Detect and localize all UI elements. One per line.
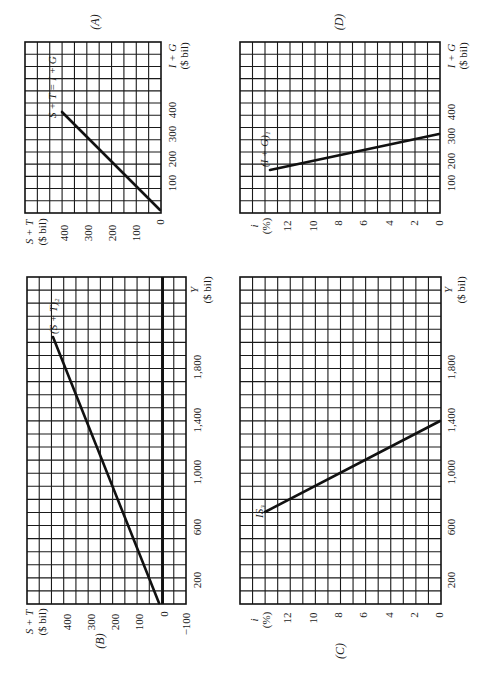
- tick-label: 1,000: [445, 459, 457, 484]
- panel-a-x-axis-label: I + G: [166, 44, 178, 70]
- tick-label: 0: [154, 219, 166, 225]
- panel-c-y-ticks: 12 10 8 6 4 2 0: [281, 612, 445, 624]
- panel-a-id: (A): [88, 14, 102, 29]
- tick-label: 2: [408, 220, 420, 226]
- tick-label: 1,800: [445, 354, 457, 379]
- panel-b-y-ticks: 400 300 200 100 0 −100: [61, 611, 192, 636]
- tick-label: 6: [357, 220, 369, 226]
- tick-label: 600: [445, 518, 457, 535]
- tick-label: 200: [445, 571, 457, 588]
- tick-label: 100: [166, 174, 178, 191]
- tick-label: 1,400: [191, 407, 203, 432]
- tick-label: 1,800: [191, 354, 203, 379]
- tick-label: 8: [332, 612, 344, 618]
- tick-label: 4: [383, 612, 395, 618]
- panel-c-id: (C): [333, 643, 347, 659]
- tick-label: 300: [166, 125, 178, 142]
- panel-c-curve: [265, 421, 440, 512]
- panel-b-curve: [53, 337, 159, 603]
- panel-d-grid: [240, 42, 440, 213]
- tick-label: 1,000: [191, 459, 203, 484]
- panel-c: IS₃ 12 10 8 6 4 2 0 i (%) 200 600 1,000 …: [240, 276, 468, 659]
- tick-label: 100: [130, 224, 142, 241]
- panel-c-y-axis-unit: (%): [260, 611, 273, 628]
- panel-a-curve-label: S + T = I + G: [46, 56, 58, 118]
- tick-label: 400: [58, 224, 70, 241]
- panel-c-curve-label: IS₃: [253, 505, 265, 519]
- panel-a-x-ticks: 100 200 300 400: [166, 101, 178, 191]
- panel-a-y-axis-label: S + T: [23, 219, 35, 244]
- tick-label: −100: [180, 612, 192, 635]
- panel-d: (I + G)₁ 12 10 8 6 4 2 0 i (%) 100 200 3…: [240, 14, 470, 235]
- panel-a-y-ticks: 400 300 200 100 0: [58, 219, 166, 242]
- panel-d-x-axis-label: I + G: [445, 44, 457, 70]
- panel-d-y-axis-unit: (%): [260, 217, 273, 234]
- panel-b-y-axis-label: S + T: [23, 609, 35, 634]
- tick-label: 300: [85, 613, 97, 630]
- tick-label: 12: [281, 613, 293, 624]
- panel-d-y-axis-label: i: [248, 224, 260, 227]
- tick-label: 200: [106, 224, 118, 241]
- panel-b-id: (B): [93, 633, 107, 648]
- tick-label: 0: [433, 612, 445, 618]
- panel-c-y-axis-label: i: [248, 618, 260, 621]
- panel-b-y-axis-unit: ($ bil): [36, 608, 49, 636]
- tick-label: 200: [109, 613, 121, 630]
- tick-label: 300: [82, 224, 94, 241]
- panel-b-x-axis-unit: ($ bil): [201, 276, 214, 304]
- tick-label: 4: [383, 220, 395, 226]
- panel-a: S + T = I + G 400 300 200 100 0 S + T ($…: [23, 14, 191, 245]
- panel-b-x-ticks: 200 600 1,000 1,400 1,800: [191, 354, 203, 588]
- four-panel-chart-figure: S + T = I + G 400 300 200 100 0 S + T ($…: [0, 0, 479, 677]
- tick-label: 10: [307, 220, 319, 232]
- tick-label: 600: [191, 518, 203, 535]
- tick-label: 200: [166, 150, 178, 167]
- tick-label: 10: [307, 612, 319, 624]
- tick-label: 400: [445, 103, 457, 120]
- tick-label: 1,400: [445, 407, 457, 432]
- panel-a-x-axis-unit: ($ bil): [178, 42, 191, 70]
- panel-d-x-ticks: 100 200 300 400: [445, 103, 457, 191]
- tick-label: 6: [357, 612, 369, 618]
- tick-label: 100: [133, 613, 145, 630]
- tick-label: 12: [281, 221, 293, 232]
- tick-label: 200: [445, 152, 457, 169]
- panel-d-y-ticks: 12 10 8 6 4 2 0: [281, 220, 445, 232]
- panel-b: (S + T)₂ 400 300 200 100 0 −100 S + T ($…: [23, 276, 214, 649]
- panel-c-x-ticks: 200 600 1,000 1,400 1,800: [445, 354, 457, 588]
- panel-d-x-axis-unit: ($ bil): [457, 42, 470, 70]
- panel-d-curve-label: (I + G)₁: [258, 131, 271, 167]
- tick-label: 8: [332, 220, 344, 226]
- panel-c-grid: [240, 277, 441, 604]
- tick-label: 400: [166, 101, 178, 118]
- panel-b-curve-label: (S + T)₂: [47, 298, 60, 334]
- tick-label: 400: [61, 613, 73, 630]
- tick-label: 0: [158, 611, 170, 617]
- tick-label: 0: [433, 220, 445, 226]
- panel-c-x-axis-unit: ($ bil): [455, 276, 468, 304]
- panel-a-y-axis-unit: ($ bil): [36, 218, 49, 246]
- panel-d-id: (D): [332, 14, 346, 31]
- tick-label: 100: [445, 174, 457, 191]
- tick-label: 2: [408, 612, 420, 618]
- tick-label: 300: [445, 127, 457, 144]
- tick-label: 200: [191, 571, 203, 588]
- panel-b-x-axis-label: Y: [188, 285, 200, 293]
- panel-c-x-axis-label: Y: [442, 285, 454, 293]
